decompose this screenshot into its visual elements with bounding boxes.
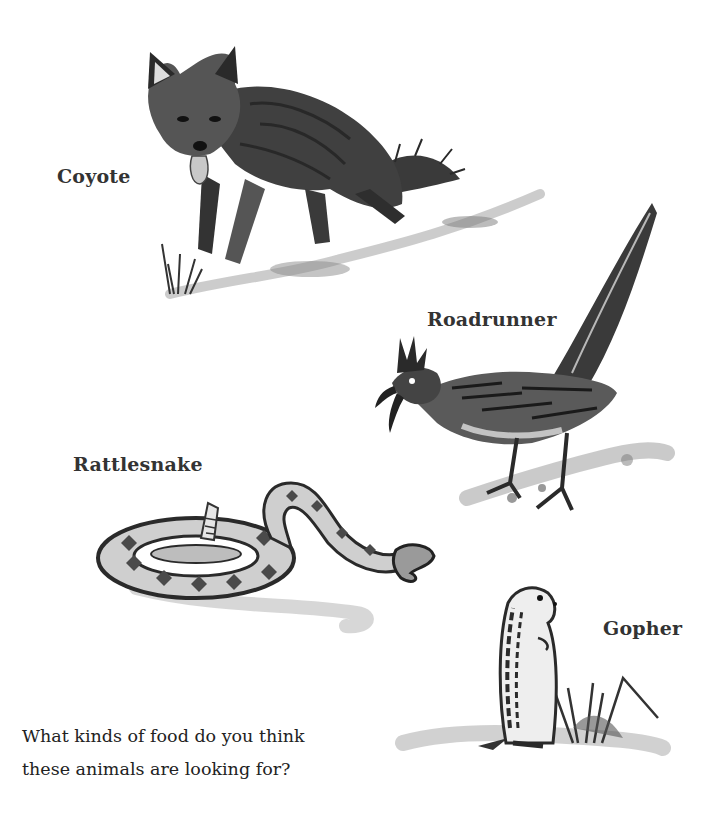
question-line-2: these animals are looking for? bbox=[22, 753, 305, 786]
roadrunner-label: Roadrunner bbox=[427, 308, 557, 330]
gopher-illustration bbox=[398, 578, 668, 763]
rattlesnake-illustration bbox=[96, 478, 441, 638]
gopher-label: Gopher bbox=[603, 617, 682, 639]
rattlesnake-label: Rattlesnake bbox=[73, 453, 203, 475]
question-line-1: What kinds of food do you think bbox=[22, 720, 305, 753]
coyote-label: Coyote bbox=[57, 165, 131, 187]
question-text: What kinds of food do you think these an… bbox=[22, 720, 305, 786]
rattlesnake-sketch-icon bbox=[96, 478, 441, 638]
gopher-sketch-icon bbox=[398, 578, 668, 763]
